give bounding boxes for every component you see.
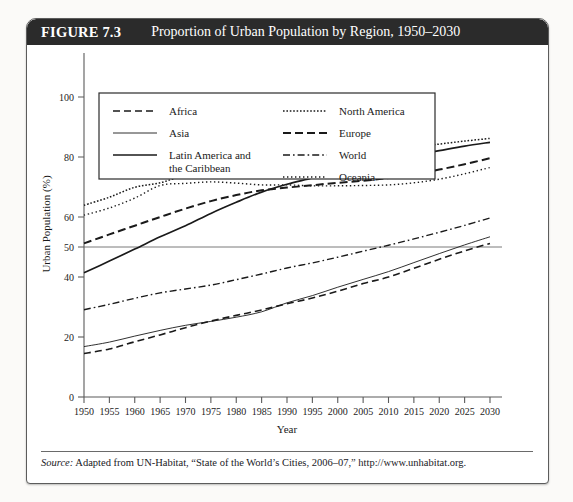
source-label: Source:: [41, 457, 73, 468]
chart-plot-area: 0204050608010019501955196019651970197519…: [27, 45, 548, 435]
x-axis-tick-label: 1955: [99, 406, 119, 417]
figure-number: FIGURE 7.3: [41, 24, 121, 41]
legend-label: Africa: [169, 105, 197, 117]
y-axis-tick-label: 20: [64, 332, 74, 343]
x-axis-title: Year: [277, 423, 298, 435]
x-axis-tick-label: 2010: [379, 406, 399, 417]
legend-label: World: [339, 149, 367, 161]
figure-box: FIGURE 7.3 Proportion of Urban Populatio…: [26, 18, 549, 484]
series-line-asia: [84, 237, 490, 347]
legend-label-line2: the Caribbean: [169, 162, 231, 174]
x-axis-tick-label: 1970: [176, 406, 196, 417]
y-axis-tick-label: 60: [64, 212, 74, 223]
x-axis-tick-label: 1950: [74, 406, 94, 417]
legend-label: Latin America and: [169, 149, 251, 161]
figure-title-bar: FIGURE 7.3 Proportion of Urban Populatio…: [27, 19, 548, 45]
y-axis-tick-label: 0: [69, 392, 74, 403]
legend-label: Europe: [339, 127, 371, 139]
x-axis-tick-label: 2000: [328, 406, 348, 417]
x-axis-tick-label: 1975: [201, 406, 221, 417]
series-line-africa: [84, 243, 490, 353]
x-axis-tick-label: 2005: [353, 406, 373, 417]
legend-label: Asia: [169, 127, 189, 139]
x-axis-tick-label: 1965: [150, 406, 170, 417]
x-axis-tick-label: 2025: [455, 406, 475, 417]
legend-label: North America: [339, 105, 405, 117]
x-axis-tick-label: 2020: [429, 406, 449, 417]
y-axis-tick-label: 80: [64, 152, 74, 163]
x-axis-tick-label: 2015: [404, 406, 424, 417]
line-chart: 0204050608010019501955196019651970197519…: [27, 45, 548, 435]
y-axis-tick-label: 50: [64, 242, 74, 253]
y-axis-tick-label: 100: [59, 92, 74, 103]
legend-label: Oceania: [339, 171, 375, 183]
x-axis-tick-label: 1995: [302, 406, 322, 417]
figure-title: Proportion of Urban Population by Region…: [151, 24, 460, 40]
x-axis-tick-label: 1960: [125, 406, 145, 417]
y-axis-tick-label: 40: [64, 272, 74, 283]
source-divider: [41, 451, 533, 452]
x-axis-tick-label: 1980: [226, 406, 246, 417]
x-axis-tick-label: 1990: [277, 406, 297, 417]
source-note: Source: Adapted from UN-Habitat, “State …: [41, 457, 537, 468]
source-text: Adapted from UN-Habitat, “State of the W…: [73, 457, 466, 468]
x-axis-tick-label: 2030: [480, 406, 500, 417]
series-line-world: [84, 218, 490, 310]
y-axis-title: Urban Population (%): [40, 175, 53, 272]
x-axis-tick-label: 1985: [252, 406, 272, 417]
page-background: FIGURE 7.3 Proportion of Urban Populatio…: [0, 0, 573, 502]
